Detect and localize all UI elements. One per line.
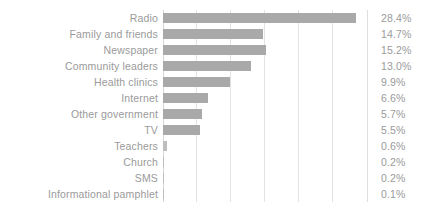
- bar-value: [163, 141, 167, 151]
- value-label: 28.4%: [368, 10, 442, 26]
- category-label: Community leaders: [0, 58, 163, 74]
- bar-track: [163, 74, 368, 90]
- bar-row: Family and friends 14.7%: [0, 26, 442, 42]
- category-label: SMS: [0, 170, 163, 186]
- value-label: 14.7%: [368, 26, 442, 42]
- chart-rows: Radio 28.4% Family and friends 14.7% New…: [0, 10, 442, 202]
- value-label: 15.2%: [368, 42, 442, 58]
- value-label: 0.1%: [368, 186, 442, 202]
- value-label: 9.9%: [368, 74, 442, 90]
- bar-row: Teachers 0.6%: [0, 138, 442, 154]
- bar-value: [163, 29, 263, 39]
- bar-value: [163, 77, 230, 87]
- bar-row: Other government 5.7%: [0, 106, 442, 122]
- category-label: Teachers: [0, 138, 163, 154]
- bar-track: [163, 90, 368, 106]
- bar-row: Internet 6.6%: [0, 90, 442, 106]
- bar-track: [163, 154, 368, 170]
- bar-track: [163, 58, 368, 74]
- value-label: 5.5%: [368, 122, 442, 138]
- value-label: 5.7%: [368, 106, 442, 122]
- bar-value: [163, 13, 356, 23]
- value-label: 13.0%: [368, 58, 442, 74]
- bar-row: Radio 28.4%: [0, 10, 442, 26]
- bar-row: Health clinics 9.9%: [0, 74, 442, 90]
- bar-value: [163, 157, 164, 167]
- bar-row: Informational pamphlet 0.1%: [0, 186, 442, 202]
- bar-value: [163, 109, 202, 119]
- category-label: Other government: [0, 106, 163, 122]
- category-label: Newspaper: [0, 42, 163, 58]
- bar-track: [163, 42, 368, 58]
- value-label: 0.2%: [368, 170, 442, 186]
- category-label: Radio: [0, 10, 163, 26]
- bar-value: [163, 173, 164, 183]
- bar-track: [163, 122, 368, 138]
- value-label: 0.2%: [368, 154, 442, 170]
- value-label: 6.6%: [368, 90, 442, 106]
- bar-row: Newspaper 15.2%: [0, 42, 442, 58]
- bar-track: [163, 170, 368, 186]
- category-label: Informational pamphlet: [0, 186, 163, 202]
- category-label: Church: [0, 154, 163, 170]
- bar-value: [163, 189, 164, 199]
- bar-track: [163, 138, 368, 154]
- bar-value: [163, 61, 251, 71]
- bar-row: Community leaders 13.0%: [0, 58, 442, 74]
- bar-row: SMS 0.2%: [0, 170, 442, 186]
- category-label: Health clinics: [0, 74, 163, 90]
- bar-value: [163, 93, 208, 103]
- bar-track: [163, 26, 368, 42]
- bar-row: TV 5.5%: [0, 122, 442, 138]
- bar-track: [163, 106, 368, 122]
- value-label: 0.6%: [368, 138, 442, 154]
- bar-track: [163, 186, 368, 202]
- bar-value: [163, 125, 200, 135]
- bar-chart: Radio 28.4% Family and friends 14.7% New…: [0, 0, 442, 217]
- category-label: TV: [0, 122, 163, 138]
- bar-value: [163, 45, 266, 55]
- category-label: Family and friends: [0, 26, 163, 42]
- bar-row: Church 0.2%: [0, 154, 442, 170]
- category-label: Internet: [0, 90, 163, 106]
- bar-track: [163, 10, 368, 26]
